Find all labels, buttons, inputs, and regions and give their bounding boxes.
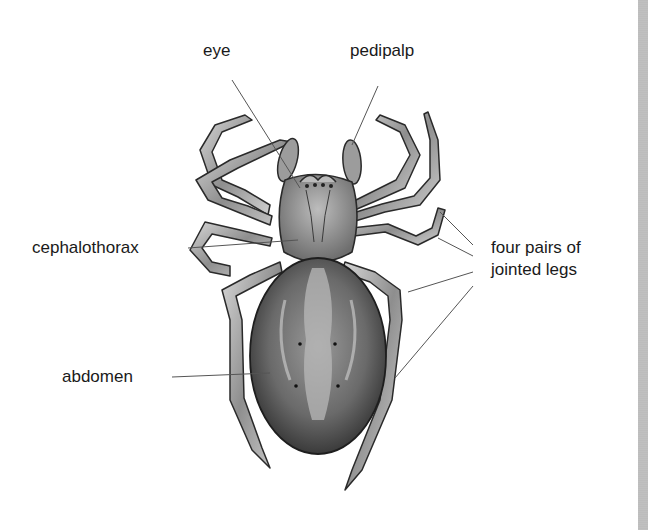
legs-leader-4	[395, 286, 473, 378]
cephalothorax-shape	[279, 174, 357, 262]
abdomen-shape	[250, 258, 386, 454]
eye-dot	[305, 184, 309, 188]
pedipalp-leader	[352, 86, 378, 145]
eye-leader	[232, 80, 300, 188]
label-abdomen: abdomen	[62, 367, 133, 386]
label-cephalothorax: cephalothorax	[32, 238, 139, 257]
label-eye: eye	[203, 41, 230, 60]
label-legs-line1: four pairs of	[491, 238, 581, 257]
legs-leader-3	[408, 272, 473, 292]
legs-leader-1	[440, 212, 473, 245]
label-legs-line2: jointed legs	[491, 260, 577, 279]
legs-leader-2	[438, 238, 473, 256]
label-pedipalp: pedipalp	[350, 41, 414, 60]
